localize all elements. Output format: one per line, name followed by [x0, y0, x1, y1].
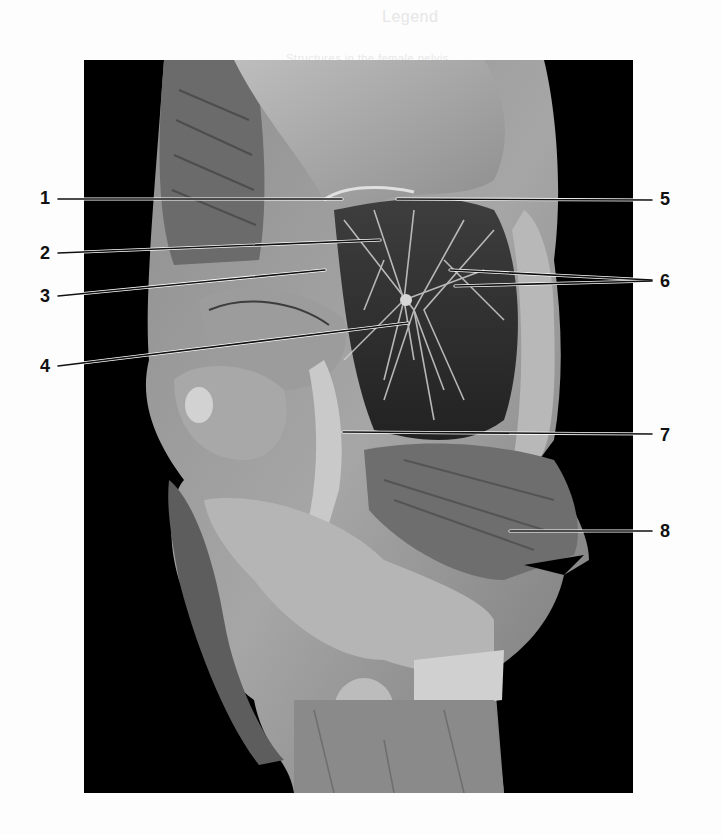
label-8: 8: [660, 522, 670, 540]
label-2: 2: [40, 244, 50, 262]
leader-lines: [0, 0, 722, 835]
label-3: 3: [40, 287, 50, 305]
leader-line-6b: [455, 281, 652, 286]
leader-line-6a: [450, 270, 652, 280]
label-5: 5: [660, 190, 670, 208]
label-1: 1: [40, 189, 50, 207]
leader-line-5: [397, 199, 652, 200]
page: Legend Structures in the female pelvis: [0, 0, 722, 835]
leader-line-2: [58, 240, 380, 253]
label-7: 7: [660, 426, 670, 444]
leader-line-3: [58, 270, 325, 296]
label-6: 6: [660, 272, 670, 290]
leader-line-4: [58, 323, 408, 366]
label-4: 4: [40, 357, 50, 375]
